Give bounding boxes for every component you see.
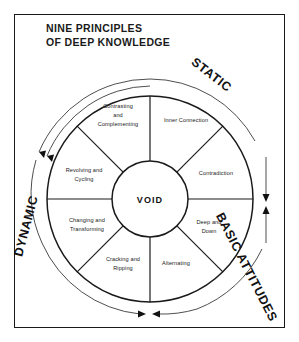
segment-inner-connection: Inner Connection — [164, 117, 208, 123]
arrowhead-bottom-left-facing — [152, 311, 160, 318]
segment-label-cracking-and-ripping-line2: Ripping — [113, 265, 133, 271]
segment-label-deep-and-down-line2: Down — [202, 228, 217, 234]
segment-label-changing-and-transforming-line1: Changing and — [69, 217, 105, 223]
segment-cracking-and-ripping: Cracking and Ripping — [106, 256, 140, 271]
segment-revolving-and-cycling: Revolving and Cycling — [66, 167, 103, 182]
axis-label-dynamic-group: DYNAMIC — [11, 194, 41, 258]
segment-label-contrasting-and-complementing-line3: Complementing — [98, 121, 138, 127]
axis-label-basic-attitudes-group: BASIC ATTITUDES — [213, 210, 280, 323]
arrow-arc-bottom-left — [42, 243, 140, 314]
diagram-canvas: NINE PRINCIPLES OF DEEP KNOWLEDGE VOID I… — [0, 0, 299, 342]
arrowhead-bottom-right-facing — [138, 311, 146, 318]
segment-label-contrasting-and-complementing-line1: Contrasting — [103, 103, 133, 109]
nine-principles-wheel: VOID Inner Connection Contradiction Deep… — [0, 0, 299, 342]
segment-label-contradiction: Contradiction — [199, 170, 233, 176]
arrowhead-right-up — [263, 206, 270, 214]
segment-label-inner-connection: Inner Connection — [164, 117, 208, 123]
arrow-arc-top-left-outer — [39, 79, 150, 152]
axis-label-basic-attitudes: BASIC ATTITUDES — [213, 210, 280, 323]
segment-label-alternating: Alternating — [162, 260, 190, 266]
axis-label-static-group: STATIC — [189, 55, 235, 95]
segment-contrasting-and-complementing: Contrasting and Complementing — [98, 103, 138, 127]
segment-alternating: Alternating — [162, 260, 190, 266]
arrowhead-right-down — [263, 194, 270, 202]
arrowhead-top-left-outer — [39, 151, 46, 159]
segment-label-changing-and-transforming-line2: Transforming — [70, 226, 104, 232]
segment-label-contrasting-and-complementing-line2: and — [113, 112, 123, 118]
arrowhead-top-left-inner — [47, 155, 54, 163]
axis-label-static: STATIC — [189, 55, 235, 95]
segment-label-revolving-and-cycling-line2: Cycling — [74, 176, 93, 182]
segment-label-cracking-and-ripping-line1: Cracking and — [106, 256, 140, 262]
axis-label-dynamic: DYNAMIC — [11, 194, 41, 258]
segment-contradiction: Contradiction — [199, 170, 233, 176]
arrow-arc-bottom-converge — [158, 309, 197, 314]
divider-upper-left — [77, 126, 123, 172]
segment-label-revolving-and-cycling-line1: Revolving and — [66, 167, 103, 173]
segment-changing-and-transforming: Changing and Transforming — [69, 217, 105, 232]
divider-upper-right — [177, 126, 223, 172]
center-void-label: VOID — [137, 195, 163, 205]
